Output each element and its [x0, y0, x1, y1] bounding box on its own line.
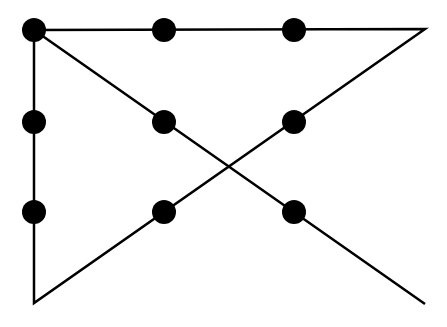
dot-9 [282, 200, 306, 224]
dot-2 [152, 18, 176, 42]
nine-dots-diagram [0, 0, 447, 327]
dot-7 [22, 200, 46, 224]
connecting-line [34, 29, 425, 304]
dot-8 [152, 200, 176, 224]
dot-4 [22, 110, 46, 134]
dot-3 [282, 18, 306, 42]
solution-path [34, 29, 425, 304]
dot-5 [152, 110, 176, 134]
dot-1 [22, 18, 46, 42]
dot-grid [22, 18, 306, 224]
dot-6 [282, 110, 306, 134]
